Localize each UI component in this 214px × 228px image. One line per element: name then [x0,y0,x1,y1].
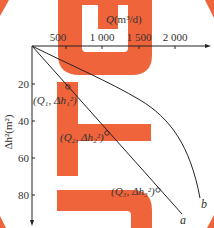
x-tick-label-1500: 1 500 [127,31,152,43]
chart-svg: Q(m³/d) 500 1 000 1 500 2 000 20 40 60 8… [0,0,214,228]
point-3-label: (Q₃, Δh₃²) [111,185,155,198]
point-3-marker [156,188,160,192]
series-a-label: a [180,213,186,227]
y-axis-label: Δh²(m²) [2,114,15,149]
x-tick-label-2000: 2 000 [163,31,188,43]
watermark-corner-tl [0,0,9,16]
chart-figure: Q(m³/d) 500 1 000 1 500 2 000 20 40 60 8… [0,0,214,228]
x-axis-label: Q(m³/d) [106,13,142,26]
watermark-corner-br [207,215,214,228]
series-b-label: b [201,197,207,211]
y-tick-label-60: 60 [18,152,30,164]
watermark-corner-tr [205,0,214,18]
y-axis-arrow-icon [30,220,34,226]
y-tick-label-80: 80 [18,189,30,201]
x-tick-label-1000: 1 000 [90,31,115,43]
watermark-corner-bl [0,216,6,228]
x-tick-label-500: 500 [50,31,67,43]
x-axis-arrow-icon [205,44,211,48]
point-2-label: (Q₂, Δh₂²) [60,131,104,144]
y-tick-label-40: 40 [18,115,30,127]
y-tick-label-20: 20 [18,78,30,90]
point-1-label: (Q₁, Δh₁²) [33,94,77,107]
